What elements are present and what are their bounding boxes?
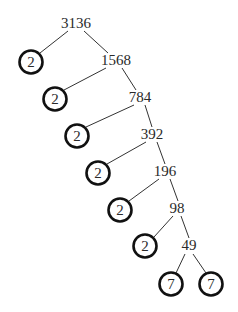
node-1568: 1568 [101, 52, 131, 68]
prime-value: 2 [73, 128, 81, 144]
prime-node: 7 [200, 273, 223, 296]
edge-98-2 [154, 216, 173, 237]
edge-1568-784 [122, 68, 136, 90]
prime-value: 7 [207, 276, 215, 292]
edge-196-98 [170, 179, 178, 201]
edge-1568-2 [64, 68, 106, 90]
edge-3136-1568 [84, 31, 108, 53]
node-3136: 3136 [61, 15, 92, 31]
prime-node: 2 [66, 125, 89, 148]
edge-196-2 [129, 179, 159, 201]
prime-node: 2 [87, 162, 110, 185]
prime-node: 2 [20, 51, 43, 74]
edge-784-2 [86, 105, 134, 127]
prime-value: 2 [51, 91, 59, 107]
node-392: 392 [141, 126, 164, 142]
prime-value: 2 [27, 54, 35, 70]
edge-392-2 [107, 142, 146, 164]
edge-98-49 [181, 216, 189, 238]
node-196: 196 [154, 163, 177, 179]
prime-node: 2 [134, 235, 157, 258]
prime-node: 2 [44, 88, 67, 111]
edge-49-7a [176, 254, 185, 273]
edge-392-196 [157, 142, 165, 164]
prime-value: 2 [141, 238, 149, 254]
edge-49-7b [193, 254, 206, 273]
prime-node: 7 [160, 273, 183, 296]
edge-784-392 [145, 105, 152, 127]
node-784: 784 [129, 89, 152, 105]
node-98: 98 [170, 200, 185, 216]
edge-3136-2 [40, 31, 68, 53]
factor-tree: 3136 1568 784 392 196 98 49 2 2 2 2 2 [0, 0, 238, 312]
node-49: 49 [182, 237, 197, 253]
prime-value: 2 [116, 202, 124, 218]
prime-node: 2 [109, 199, 132, 222]
prime-nodes: 2 2 2 2 2 2 7 7 [20, 51, 223, 296]
prime-value: 2 [94, 165, 102, 181]
prime-value: 7 [167, 276, 175, 292]
